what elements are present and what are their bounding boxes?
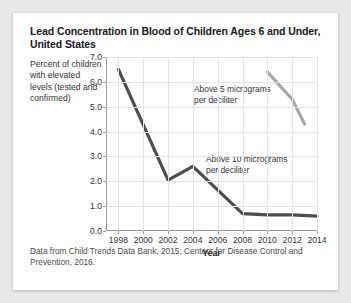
x-tick-mark — [267, 231, 268, 234]
series-line — [267, 72, 304, 124]
y-tick-mark — [103, 156, 106, 157]
gridline-vertical — [193, 57, 194, 231]
x-tick-label: 2008 — [233, 235, 252, 245]
y-tick-label: 5.0 — [90, 102, 102, 112]
y-tick-mark — [103, 107, 106, 108]
x-tick-label: 2000 — [134, 235, 153, 245]
x-tick-label: 1998 — [109, 235, 128, 245]
gridline-vertical — [168, 57, 169, 231]
y-tick-label: 3.0 — [90, 151, 102, 161]
x-tick-mark — [317, 231, 318, 234]
annotation-above-5: Above 5 micrograms per deciliter — [194, 84, 271, 105]
gridline-vertical — [218, 57, 219, 231]
x-tick-mark — [168, 231, 169, 234]
gridline-horizontal — [106, 107, 317, 108]
gridline-horizontal — [106, 57, 317, 58]
gridline-vertical — [118, 57, 119, 231]
x-tick-mark — [218, 231, 219, 234]
y-tick-mark — [103, 57, 106, 58]
x-tick-mark — [143, 231, 144, 234]
x-tick-mark — [243, 231, 244, 234]
gridline-vertical — [292, 57, 293, 231]
x-tick-mark — [292, 231, 293, 234]
x-tick-label: 2004 — [183, 235, 202, 245]
y-tick-mark — [103, 181, 106, 182]
gridline-horizontal — [106, 181, 317, 182]
x-tick-label: 2010 — [258, 235, 277, 245]
y-tick-label: 4.0 — [90, 127, 102, 137]
gridline-horizontal — [106, 156, 317, 157]
x-tick-label: 2014 — [307, 235, 326, 245]
y-tick-mark — [103, 82, 106, 83]
gridline-horizontal — [106, 82, 317, 83]
x-tick-mark — [193, 231, 194, 234]
gridline-horizontal — [106, 132, 317, 133]
y-tick-mark — [103, 231, 106, 232]
x-tick-mark — [118, 231, 119, 234]
gridline-vertical — [317, 57, 318, 231]
chart-card: Lead Concentration in Blood of Children … — [13, 13, 338, 290]
y-tick-label: 1.0 — [90, 201, 102, 211]
gridline-vertical — [143, 57, 144, 231]
gridline-horizontal — [106, 206, 317, 207]
y-tick-label: 0.0 — [90, 226, 102, 236]
y-tick-mark — [103, 132, 106, 133]
gridline-vertical — [267, 57, 268, 231]
x-tick-label: 2002 — [158, 235, 177, 245]
x-tick-label: 2012 — [283, 235, 302, 245]
plot-region: Above 5 micrograms per deciliter Above 1… — [106, 57, 317, 231]
y-tick-label: 6.0 — [90, 77, 102, 87]
x-tick-label: 2006 — [208, 235, 227, 245]
y-tick-label: 7.0 — [90, 52, 102, 62]
y-tick-label: 2.0 — [90, 176, 102, 186]
source-caption: Data from Child Trends Data Bank, 2015; … — [30, 246, 322, 268]
y-tick-mark — [103, 206, 106, 207]
gridline-vertical — [243, 57, 244, 231]
